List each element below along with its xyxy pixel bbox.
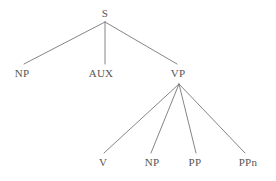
tree-node-np-subject: NP bbox=[15, 68, 30, 79]
tree-node-ppn: PPn bbox=[239, 157, 258, 168]
tree-edge-vp-to-ppn bbox=[179, 84, 245, 153]
tree-edge-s-to-np bbox=[24, 22, 105, 64]
tree-node-np-object: NP bbox=[145, 157, 160, 168]
tree-node-v: V bbox=[99, 157, 107, 168]
tree-node-s: S bbox=[102, 8, 108, 19]
tree-edge-vp-to-np bbox=[151, 84, 179, 153]
tree-node-aux: AUX bbox=[89, 68, 114, 79]
tree-node-pp: PP bbox=[189, 157, 202, 168]
tree-edge-vp-to-v bbox=[104, 84, 179, 153]
syntax-tree-figure: S NP AUX VP V NP PP PPn bbox=[0, 0, 276, 181]
tree-edges-layer bbox=[0, 0, 276, 181]
tree-edge-s-to-vp bbox=[105, 22, 177, 64]
tree-edge-vp-to-pp bbox=[179, 84, 196, 153]
tree-node-vp: VP bbox=[171, 68, 186, 79]
